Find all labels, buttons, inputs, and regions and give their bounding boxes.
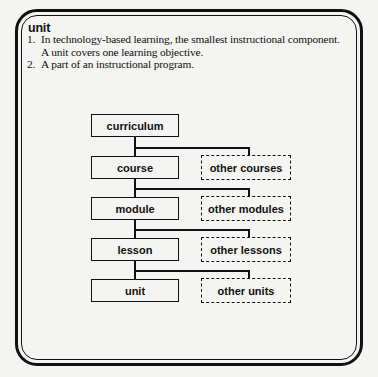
box-module: module [91, 197, 179, 220]
box-other-modules: other modules [201, 196, 291, 221]
box-curriculum: curriculum [91, 114, 179, 137]
branch-drop [248, 229, 250, 237]
branch-line [134, 270, 249, 272]
box-other-units: other units [201, 278, 291, 303]
box-other-courses: other courses [201, 155, 291, 180]
definition-text: A part of an instructional program. [41, 58, 194, 70]
branch-drop [248, 188, 250, 196]
branch-line [134, 188, 249, 190]
definition-number: 2. [27, 58, 35, 71]
box-lesson: lesson [91, 238, 179, 261]
branch-drop [248, 270, 250, 278]
box-other-lessons: other lessons [201, 237, 291, 262]
branch-line [134, 147, 249, 149]
box-course: course [91, 156, 179, 179]
definition-item: 2. A part of an instructional program. [27, 58, 347, 71]
definition-list: 1. In technology-based learning, the sma… [27, 33, 347, 71]
branch-line [134, 229, 249, 231]
definition-number: 1. [27, 33, 35, 46]
definition-text: In technology-based learning, the smalle… [41, 33, 340, 58]
definition-item: 1. In technology-based learning, the sma… [27, 33, 347, 58]
box-unit: unit [91, 279, 179, 302]
